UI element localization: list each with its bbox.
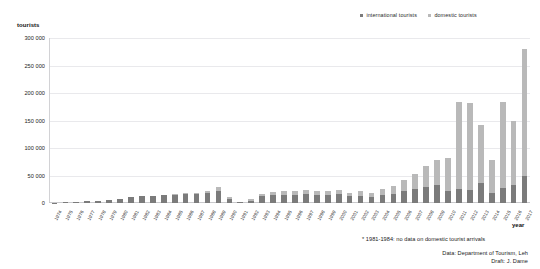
bar-group[interactable] bbox=[314, 191, 320, 203]
bar-group[interactable] bbox=[303, 190, 309, 203]
bar-segment-international bbox=[522, 176, 528, 203]
y-axis-tick-label: 300 000 bbox=[0, 35, 45, 41]
bar-segment-domestic bbox=[489, 160, 495, 193]
bar-segment-international bbox=[194, 194, 200, 203]
bar-group[interactable] bbox=[259, 194, 265, 203]
bar-group[interactable] bbox=[292, 191, 298, 203]
bar-group[interactable] bbox=[161, 195, 167, 203]
bar-group[interactable] bbox=[139, 196, 145, 203]
y-axis-tick-label: 150 000 bbox=[0, 118, 45, 124]
bar-group[interactable] bbox=[391, 186, 397, 203]
bar-segment-international bbox=[478, 183, 484, 203]
bar-group[interactable] bbox=[380, 189, 386, 203]
x-axis-tick-labels: 1974197519761977197819791980198119821983… bbox=[49, 205, 530, 231]
bar-group[interactable] bbox=[172, 194, 178, 203]
x-axis-tick-label: 1978 bbox=[98, 209, 107, 221]
bar-group[interactable] bbox=[412, 174, 418, 203]
x-axis-tick-label: 2001 bbox=[349, 209, 358, 221]
bar-segment-international bbox=[281, 195, 287, 203]
x-axis-tick-label: 1990 bbox=[229, 209, 238, 221]
x-axis-tick-label: 1991 bbox=[240, 209, 249, 221]
bar-group[interactable] bbox=[128, 197, 134, 203]
x-axis-tick-label: 1997 bbox=[305, 209, 314, 221]
bar-segment-international bbox=[205, 193, 211, 203]
footnote-draft: Draft: J. Dame bbox=[491, 258, 528, 264]
bar-group[interactable] bbox=[84, 201, 90, 203]
bar-group[interactable] bbox=[325, 191, 331, 203]
bar-group[interactable] bbox=[237, 202, 243, 203]
bar-group[interactable] bbox=[369, 193, 375, 203]
bar-group[interactable] bbox=[281, 191, 287, 203]
bar-group[interactable] bbox=[445, 158, 451, 203]
legend-item-domestic[interactable]: domestic tourists bbox=[428, 13, 477, 18]
bar-segment-international bbox=[325, 195, 331, 203]
bar-group[interactable] bbox=[227, 197, 233, 203]
x-axis-tick-label: 1984 bbox=[163, 209, 172, 221]
bar-group[interactable] bbox=[73, 202, 79, 203]
bar-group[interactable] bbox=[500, 102, 506, 203]
y-axis-tick-label: 250 000 bbox=[0, 63, 45, 69]
tourist-arrivals-bar-chart: international tourists domestic tourists… bbox=[0, 0, 540, 269]
bar-segment-international bbox=[128, 197, 134, 203]
bar-segment-international bbox=[172, 195, 178, 203]
bar-group[interactable] bbox=[522, 49, 528, 203]
chart-legend: international tourists domestic tourists bbox=[360, 13, 477, 18]
bar-group[interactable] bbox=[248, 199, 254, 203]
bar-segment-international bbox=[216, 191, 222, 203]
bar-segment-international bbox=[63, 202, 69, 203]
x-axis-tick-label: 2009 bbox=[437, 209, 446, 221]
bar-group[interactable] bbox=[434, 160, 440, 203]
x-axis-tick-label: 1974 bbox=[54, 209, 63, 221]
x-axis-tick-label: 2014 bbox=[491, 209, 500, 221]
bar-group[interactable] bbox=[205, 191, 211, 203]
bar-group[interactable] bbox=[183, 193, 189, 203]
x-axis-tick-label: 2005 bbox=[393, 209, 402, 221]
legend-label-domestic: domestic tourists bbox=[434, 13, 476, 18]
legend-swatch-domestic-icon bbox=[428, 14, 431, 17]
bar-segment-international bbox=[303, 194, 309, 203]
x-axis-tick-label: 1980 bbox=[119, 209, 128, 221]
bar-segment-domestic bbox=[445, 158, 451, 191]
x-axis-tick-label: 2017 bbox=[524, 209, 533, 221]
x-axis-tick-label: 2000 bbox=[338, 209, 347, 221]
bar-group[interactable] bbox=[150, 196, 156, 203]
bar-group[interactable] bbox=[489, 160, 495, 203]
x-axis-tick-label: 2008 bbox=[426, 209, 435, 221]
bar-group[interactable] bbox=[358, 191, 364, 203]
bar-group[interactable] bbox=[456, 102, 462, 203]
bar-segment-international bbox=[150, 196, 156, 203]
bar-segment-international bbox=[434, 185, 440, 203]
legend-item-international[interactable]: international tourists bbox=[360, 13, 417, 18]
bar-group[interactable] bbox=[401, 180, 407, 203]
x-axis-tick-label: 1998 bbox=[316, 209, 325, 221]
x-axis-tick-label: 2004 bbox=[382, 209, 391, 221]
bar-group[interactable] bbox=[423, 166, 429, 203]
x-axis-tick-label: 2007 bbox=[415, 209, 424, 221]
bar-segment-domestic bbox=[467, 103, 473, 190]
bar-group[interactable] bbox=[117, 199, 123, 203]
bar-group[interactable] bbox=[467, 103, 473, 203]
bar-group[interactable] bbox=[511, 121, 517, 204]
bar-group[interactable] bbox=[336, 190, 342, 203]
x-axis-tick-label: 2013 bbox=[480, 209, 489, 221]
bar-segment-international bbox=[423, 187, 429, 204]
bar-segment-domestic bbox=[423, 166, 429, 186]
bar-segment-international bbox=[369, 197, 375, 203]
x-axis-tick-label: 1996 bbox=[294, 209, 303, 221]
footnote-no-data-annotation: * 1981-1984: no data on domestic tourist… bbox=[362, 236, 485, 242]
x-axis-tick-label: 1979 bbox=[109, 209, 118, 221]
bar-group[interactable] bbox=[478, 125, 484, 203]
bar-group[interactable] bbox=[216, 187, 222, 204]
x-axis-tick-label: 1993 bbox=[262, 209, 271, 221]
legend-swatch-international-icon bbox=[360, 14, 363, 17]
bar-group[interactable] bbox=[95, 201, 101, 203]
bar-segment-domestic bbox=[511, 121, 517, 185]
bar-group[interactable] bbox=[63, 202, 69, 203]
bar-group[interactable] bbox=[106, 200, 112, 203]
x-axis-tick-label: 2011 bbox=[458, 210, 467, 221]
bar-segment-international bbox=[161, 195, 167, 203]
y-axis-tick-label: 200 000 bbox=[0, 90, 45, 96]
bar-group[interactable] bbox=[194, 193, 200, 203]
bar-group[interactable] bbox=[347, 193, 353, 203]
bar-group[interactable] bbox=[270, 192, 276, 203]
